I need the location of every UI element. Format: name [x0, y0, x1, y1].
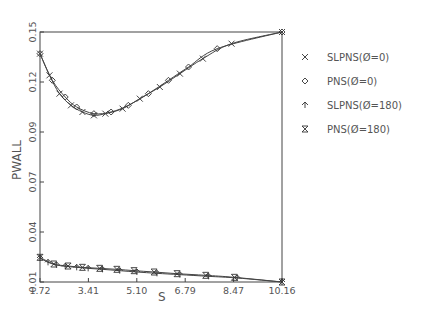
series-line	[40, 32, 282, 115]
series-line	[40, 32, 282, 114]
chart: 1.723.415.106.798.4710.160.010.040.070.0…	[0, 0, 421, 322]
y-tick-label: 0.15	[27, 21, 38, 42]
y-tick-label: 0.07	[27, 171, 38, 192]
axis-ticks: 1.723.415.106.798.4710.160.010.040.070.0…	[27, 21, 296, 296]
y-axis-label: PWALL	[10, 140, 24, 180]
legend-item: SLPNS(Ø=180)	[302, 100, 402, 111]
y-tick-label: 0.09	[27, 121, 38, 142]
x-axis-label: S	[158, 290, 166, 304]
y-tick-label: 0.12	[27, 71, 38, 92]
legend-item: PNS(Ø=0)	[302, 76, 377, 87]
legend-label: PNS(Ø=180)	[327, 124, 390, 135]
legend: SLPNS(Ø=0)PNS(Ø=0)SLPNS(Ø=180)PNS(Ø=180)	[302, 52, 402, 135]
y-tick-label: 0.04	[27, 221, 38, 242]
legend-item: SLPNS(Ø=0)	[302, 52, 389, 63]
y-tick-label: 0.01	[27, 271, 38, 292]
x-tick-label: 5.10	[126, 285, 147, 296]
x-tick-label: 10.16	[268, 285, 295, 296]
x-marker	[302, 54, 308, 60]
x-tick-label: 8.47	[223, 285, 244, 296]
series	[37, 255, 285, 285]
hourglass-marker	[302, 126, 308, 132]
legend-label: SLPNS(Ø=0)	[327, 52, 389, 63]
series	[37, 29, 285, 117]
x-tick-label: 6.79	[175, 285, 196, 296]
legend-item: PNS(Ø=180)	[302, 124, 390, 135]
arrow-marker	[302, 102, 308, 108]
legend-label: PNS(Ø=0)	[327, 76, 377, 87]
plot-border	[40, 32, 282, 282]
series	[37, 254, 285, 285]
diamond-marker	[302, 78, 308, 84]
plot-frame	[40, 32, 282, 282]
plot-series	[37, 29, 285, 285]
x-tick-label: 3.41	[78, 285, 99, 296]
legend-label: SLPNS(Ø=180)	[327, 100, 402, 111]
